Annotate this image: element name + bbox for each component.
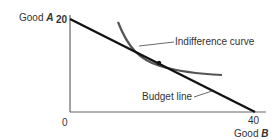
budget-line-label: Budget line (142, 91, 192, 102)
tangency-point (157, 61, 161, 65)
x-axis-label: Good B (234, 128, 268, 139)
y-axis-label: Good A (19, 12, 53, 23)
indifference-curve-leader (139, 42, 174, 46)
y-axis-tick-20: 20 (56, 14, 68, 25)
x-axis-tick-40: 40 (248, 115, 260, 126)
indifference-curve-label: Indifference curve (175, 36, 255, 47)
origin-label: 0 (62, 117, 68, 128)
diagram-canvas: Good A 20 0 40 Good B Indifference curve… (0, 0, 278, 140)
budget-line-leader (194, 91, 212, 97)
indifference-curve (118, 22, 222, 75)
